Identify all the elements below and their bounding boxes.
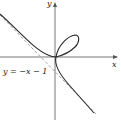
y-axis-label: y <box>46 0 52 8</box>
asymptote-label: y = −x − 1 <box>2 67 47 76</box>
x-axis-arrow-icon <box>113 55 118 59</box>
curve-left-branch <box>0 14 56 57</box>
folium-diagram: y x y = −x − 1 <box>0 0 121 122</box>
curve-lower-branch <box>56 57 94 113</box>
x-axis-label: x <box>112 60 117 69</box>
y-axis-arrow-icon <box>53 2 57 7</box>
curve-loop <box>56 35 79 57</box>
